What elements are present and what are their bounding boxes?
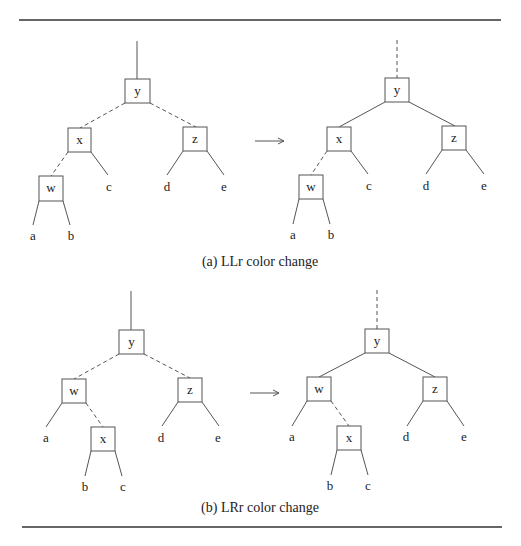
edge-x-c xyxy=(115,451,122,476)
leaf-d: d xyxy=(423,178,430,193)
edge-w-a xyxy=(46,403,62,427)
leaf-c: c xyxy=(120,479,126,494)
edge-w-b xyxy=(63,201,70,225)
edge-y-w xyxy=(74,354,119,379)
leaf-b: b xyxy=(327,478,334,493)
leaf-b: b xyxy=(82,479,89,494)
panel-a-before-tree: y x z w c d e a b xyxy=(30,41,227,243)
leaf-b: b xyxy=(328,227,335,242)
edge-z-e xyxy=(202,402,219,426)
edge-z-e xyxy=(207,151,224,175)
panel-b-after-tree: y w z x a d e b c xyxy=(289,290,467,493)
leaf-c: c xyxy=(366,178,372,193)
node-y-label: y xyxy=(374,333,381,348)
node-w-label: w xyxy=(69,383,79,398)
edge-z-e xyxy=(466,150,484,174)
edge-w-a xyxy=(292,401,307,426)
leaf-b: b xyxy=(68,228,75,243)
caption-b: (b) LRr color change xyxy=(201,500,319,516)
node-y-label: y xyxy=(134,83,141,98)
arrow-icon xyxy=(255,138,284,144)
edge-x-w xyxy=(311,151,327,175)
edge-x-c xyxy=(351,151,368,174)
edge-w-x xyxy=(86,403,103,427)
leaf-e: e xyxy=(215,430,221,445)
edge-x-w xyxy=(51,152,68,176)
leaf-e: e xyxy=(481,178,487,193)
edge-z-d xyxy=(162,402,178,426)
edge-x-c xyxy=(91,152,108,175)
leaf-c: c xyxy=(106,179,112,194)
node-w-label: w xyxy=(306,179,316,194)
edge-z-d xyxy=(167,151,183,175)
edge-y-x xyxy=(80,103,125,128)
edge-y-z xyxy=(144,354,190,378)
edge-y-w xyxy=(319,353,365,377)
edge-y-x xyxy=(339,102,385,127)
edge-w-a xyxy=(293,199,299,224)
leaf-a: a xyxy=(290,227,296,242)
edge-z-e xyxy=(447,401,464,426)
node-y-label: y xyxy=(128,334,135,349)
edge-z-d xyxy=(407,401,423,426)
edge-w-a xyxy=(33,201,39,225)
node-z-label: z xyxy=(432,381,438,396)
leaf-a: a xyxy=(30,228,36,243)
node-x-label: x xyxy=(76,132,83,147)
node-z-label: z xyxy=(451,130,457,145)
leaf-d: d xyxy=(158,430,165,445)
edge-x-b xyxy=(331,450,337,475)
node-z-label: z xyxy=(187,382,193,397)
node-x-label: x xyxy=(100,431,107,446)
node-x-label: x xyxy=(336,131,343,146)
node-x-label: x xyxy=(346,430,353,445)
panel-b-before-tree: y w z x a d e b c xyxy=(43,291,221,494)
edge-y-z xyxy=(150,103,196,127)
node-w-label: w xyxy=(46,180,56,195)
caption-a: (a) LLr color change xyxy=(202,254,318,270)
figure-canvas: y x z w c d e a b y x z w c d xyxy=(0,0,521,546)
leaf-a: a xyxy=(289,429,295,444)
leaf-d: d xyxy=(403,429,410,444)
leaf-e: e xyxy=(461,429,467,444)
edge-w-b xyxy=(323,199,330,224)
edge-y-z xyxy=(389,353,435,377)
node-z-label: z xyxy=(192,131,198,146)
node-w-label: w xyxy=(314,381,324,396)
edge-x-c xyxy=(361,450,368,475)
edge-y-z xyxy=(409,102,455,126)
leaf-a: a xyxy=(43,430,49,445)
leaf-d: d xyxy=(164,179,171,194)
edge-w-x xyxy=(331,401,349,426)
leaf-e: e xyxy=(221,179,227,194)
node-y-label: y xyxy=(394,82,401,97)
panel-a-after-tree: y x z w c d e a b xyxy=(290,40,487,242)
edge-z-d xyxy=(426,150,442,174)
leaf-c: c xyxy=(365,478,371,493)
edge-x-b xyxy=(85,451,91,476)
arrow-icon xyxy=(250,390,279,396)
